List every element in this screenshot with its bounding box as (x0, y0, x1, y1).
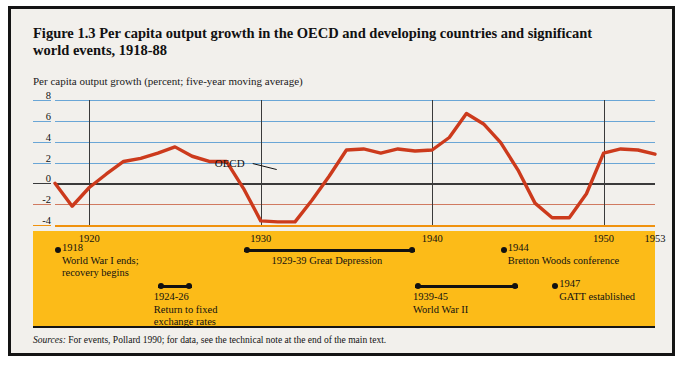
band-bottom-rule (33, 326, 655, 328)
y-axis-label--2: -2 (31, 194, 51, 205)
figure-title-line-2: world events, 1918-88 (33, 42, 643, 59)
event-endpoint-dot (512, 283, 518, 289)
source-text: For events, Pollard 1990; for data, see … (68, 335, 386, 345)
leader-line (253, 164, 277, 170)
event-endpoint-dot (409, 247, 415, 253)
event-label: 1924-26 Return to fixed exchange rates (154, 291, 218, 329)
y-axis-label-8: 8 (31, 90, 51, 101)
event-point-dot (552, 283, 558, 289)
event-span-bar (415, 285, 518, 288)
y-axis-caption: Per capita output growth (percent; five-… (33, 75, 303, 87)
x-axis-tick-1940: 1940 (422, 233, 443, 244)
event-endpoint-dot (415, 283, 421, 289)
y-axis-label--4: -4 (31, 215, 51, 226)
event-label: 1929-39 Great Depression (272, 255, 383, 268)
event-label: 1918 World War I ends; recovery begins (62, 242, 139, 280)
y-axis-label-4: 4 (31, 131, 51, 142)
x-axis-tick-1953: 1953 (645, 233, 666, 244)
source-label: Sources: (33, 335, 66, 345)
y-axis-label-6: 6 (31, 110, 51, 121)
y-axis-label-2: 2 (31, 152, 51, 163)
x-axis-tick-1930: 1930 (250, 233, 271, 244)
event-label: 1947 GATT established (559, 278, 635, 303)
event-point-dot (55, 247, 61, 253)
events-timeline-band: 19201930194019501953 1918 World War I en… (33, 231, 655, 326)
event-span-bar (244, 249, 415, 252)
source-note: Sources: For events, Pollard 1990; for d… (33, 335, 386, 345)
event-endpoint-dot (186, 283, 192, 289)
oecd-annotation-leader (55, 100, 655, 225)
figure-title-block: Figure 1.3 Per capita output growth in t… (33, 25, 643, 59)
event-label: 1939-45 World War II (413, 291, 468, 316)
event-point-dot (501, 247, 507, 253)
y-axis-label-0: 0 (31, 173, 51, 184)
plot-area: 86420-2-4 OECD (55, 100, 655, 225)
figure-title-line-1: Figure 1.3 Per capita output growth in t… (33, 25, 643, 42)
event-endpoint-dot (158, 283, 164, 289)
gridline--4 (55, 225, 655, 227)
plot-wrapper: 86420-2-4 OECD (33, 91, 655, 231)
oecd-series-label: OECD (215, 157, 245, 169)
event-endpoint-dot (244, 247, 250, 253)
event-label: 1944 Bretton Woods conference (508, 242, 620, 267)
figure-container: Figure 1.3 Per capita output growth in t… (8, 6, 675, 356)
